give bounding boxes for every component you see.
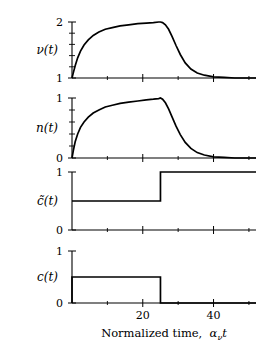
y-axis-label-nu: ν(t) — [37, 43, 59, 57]
y-tick-label-c-0: 0 — [56, 297, 63, 310]
y-axis-label-c: c(t) — [37, 270, 58, 284]
data-curve-n — [72, 98, 256, 158]
y-tick-label-c-1: 1 — [56, 245, 63, 258]
y-tick-label-nu-1: 2 — [56, 16, 63, 29]
y-tick-label-n-1: 1 — [56, 92, 63, 105]
y-axis-label-c-tilde: c̃(t) — [37, 194, 58, 208]
multi-panel-plot: 12ν(t)01n(t)01c̃(t)01c(t)2040Normalized … — [0, 0, 266, 353]
y-axis-label-n: n(t) — [36, 121, 58, 135]
y-tick-label-c-tilde-1: 1 — [56, 166, 63, 179]
x-tick-label-0: 20 — [136, 309, 150, 322]
x-axis-label: Normalized time, ανt — [101, 326, 227, 342]
figure-container: 12ν(t)01n(t)01c̃(t)01c(t)2040Normalized … — [0, 0, 266, 353]
x-tick-label-1: 40 — [207, 309, 221, 322]
y-tick-label-n-0: 0 — [56, 152, 63, 165]
data-curve-c-tilde — [72, 172, 256, 201]
data-curve-c — [72, 277, 256, 303]
data-curve-nu — [72, 22, 256, 78]
y-tick-label-nu-0: 1 — [56, 72, 63, 85]
y-tick-label-c-tilde-0: 0 — [56, 224, 63, 237]
